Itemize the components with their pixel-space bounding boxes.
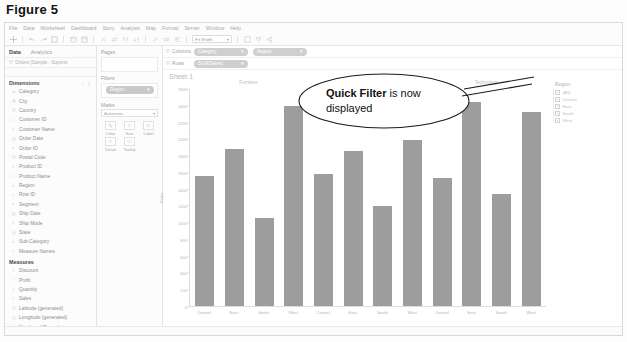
bar[interactable] [284,106,303,306]
sort-descending-icon[interactable] [132,35,140,43]
checkbox-icon[interactable] [555,97,560,102]
column-pill-category[interactable]: Category ▾ [194,48,248,56]
share-icon[interactable] [265,35,273,43]
marks-size-button[interactable]: Size [120,121,139,136]
bar[interactable] [522,112,541,306]
bar[interactable] [344,151,363,306]
menu-item-map[interactable]: Map [146,25,156,31]
dimension-measure-names[interactable]: Measure Names [5,247,96,256]
measure-sales[interactable]: #Sales [5,294,96,303]
chevron-down-icon[interactable]: ▾ [147,87,150,92]
dimension-order-date[interactable]: Order Date [5,134,96,143]
bar-cell[interactable] [190,89,220,306]
marks-color-button[interactable]: Color [101,121,120,136]
dimension-postal-code[interactable]: Postal Code [5,153,96,162]
tableau-logo-icon[interactable] [9,35,17,43]
chevron-down-icon[interactable]: ▾ [300,49,303,54]
measure-longitude[interactable]: Longitude (generated) [5,313,96,322]
presentation-mode-icon[interactable] [254,35,262,43]
filter-pill-region[interactable]: Region ▾ [106,86,154,94]
show-mark-labels-icon[interactable] [173,35,181,43]
bar-cell[interactable] [220,89,250,306]
dimension-sub-category[interactable]: Sub-Category [5,237,96,246]
bar-cell[interactable] [338,89,368,306]
measure-profit[interactable]: #Profit [5,275,96,284]
dimension-country[interactable]: Country [5,106,96,115]
quick-filter-card[interactable]: Region (All)CentralEastSouthWest [555,82,619,124]
dimensions-options-icon[interactable]: ⌄ ⋮ [81,81,92,86]
chevron-down-icon[interactable]: ▾ [241,61,244,66]
measure-latitude[interactable]: Latitude (generated) [5,304,96,313]
dimension-state[interactable]: State [5,228,96,237]
menu-item-analysis[interactable]: Analysis [121,25,140,31]
menu-item-data[interactable]: Data [23,25,34,31]
bar[interactable] [195,176,214,306]
highlight-icon[interactable] [151,35,159,43]
dimension-segment[interactable]: Segment [5,200,96,209]
fix-axes-icon[interactable] [243,35,251,43]
bar[interactable] [314,174,333,306]
bar[interactable] [403,140,422,306]
group-members-icon[interactable] [162,35,170,43]
menu-item-help[interactable]: Help [230,25,241,31]
bar-cell[interactable] [487,89,517,306]
checkbox-icon[interactable] [555,104,560,109]
measure-quantity[interactable]: #Quantity [5,285,96,294]
undo-icon[interactable] [28,35,36,43]
swap-rows-columns-icon[interactable] [110,35,118,43]
bar[interactable] [492,194,511,306]
checkbox-icon[interactable] [555,90,560,95]
bar-cell[interactable] [427,89,457,306]
bar-cell[interactable] [368,89,398,306]
dimension-product-id[interactable]: Product ID [5,162,96,171]
chevron-down-icon[interactable]: ▾ [241,49,244,54]
bar[interactable] [433,178,452,306]
column-pill-region[interactable]: Region ▾ [253,48,307,56]
bar-cell[interactable] [279,89,309,306]
menu-item-file[interactable]: File [9,25,17,31]
marks-tooltip-button[interactable]: Tooltip [120,137,139,152]
checkbox-icon[interactable] [555,118,560,123]
bar-cell[interactable] [398,89,428,306]
data-pane-search[interactable] [5,68,96,77]
tab-data[interactable]: Data [9,49,21,55]
menu-item-window[interactable]: Window [206,25,224,31]
bar-cell[interactable] [249,89,279,306]
dimension-category[interactable]: Category [5,87,96,96]
bar-cell[interactable] [516,89,546,306]
data-source-item[interactable]: Orders (Sample - Superst [5,58,96,68]
marks-detail-button[interactable]: Detail [101,137,120,152]
dimension-city[interactable]: City [5,96,96,105]
dimension-region[interactable]: Region [5,181,96,190]
quick-filter-item[interactable]: West [555,117,619,124]
menu-item-server[interactable]: Server [184,25,199,31]
dimension-product-name[interactable]: Product Name [5,172,96,181]
dimension-customer-id[interactable]: Customer ID [5,115,96,124]
menu-item-story[interactable]: Story [102,25,114,31]
pages-shelf[interactable] [101,57,158,72]
dimension-ship-mode[interactable]: Ship Mode [5,218,96,227]
sheet-title[interactable]: Sheet 1 [163,70,622,80]
bar[interactable] [225,149,244,306]
dimension-ship-date[interactable]: Ship Date [5,209,96,218]
marks-type-dropdown[interactable]: Automatic ▾ [101,109,158,117]
bar-cell[interactable] [457,89,487,306]
save-icon[interactable] [50,35,58,43]
marks-label-button[interactable]: Label [139,121,158,136]
dimension-row-id[interactable]: Row ID [5,190,96,199]
bar[interactable] [373,206,392,306]
menu-item-format[interactable]: Format [162,25,178,31]
filters-shelf[interactable]: Region ▾ [101,83,158,98]
bar[interactable] [255,218,274,306]
tab-analytics[interactable]: Analytics [31,49,53,55]
fit-dropdown[interactable]: Fit Width ▾ [192,35,232,43]
new-worksheet-icon[interactable] [80,35,88,43]
clear-sheet-icon[interactable] [99,35,107,43]
menu-item-dashboard[interactable]: Dashboard [71,25,96,31]
row-pill-sum-sales[interactable]: SUM(Sales) ▾ [194,60,248,68]
measure-discount[interactable]: #Discount [5,266,96,275]
quick-filter-item[interactable]: East [555,103,619,110]
new-data-source-icon[interactable] [69,35,77,43]
dimension-customer-name[interactable]: Customer Name [5,125,96,134]
quick-filter-item[interactable]: South [555,110,619,117]
